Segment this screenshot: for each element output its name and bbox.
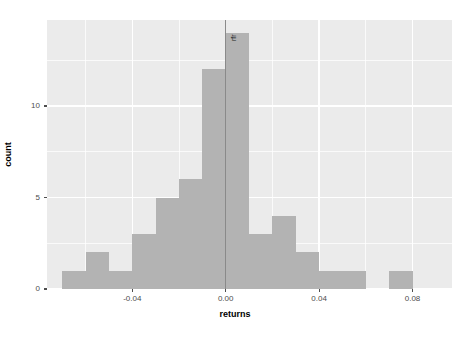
histogram-bar [86, 252, 109, 289]
histogram-bar [342, 271, 365, 289]
gridline-major-y [47, 197, 452, 198]
histogram-bar [202, 69, 225, 289]
gridline-major-x [412, 20, 413, 289]
x-tick-label: 0.00 [201, 294, 251, 303]
histogram-bar [109, 271, 132, 289]
x-tick-mark [412, 289, 413, 292]
histogram-bar [249, 234, 272, 289]
gridline-minor-y [47, 151, 452, 152]
y-tick-label: 5 [11, 193, 40, 202]
gridline-minor-x [365, 20, 366, 289]
x-axis-title: returns [0, 309, 470, 319]
gridline-minor-x [85, 20, 86, 289]
x-tick-label: 0.08 [388, 294, 438, 303]
x-tick-label: 0.04 [294, 294, 344, 303]
histogram-bar [132, 234, 155, 289]
histogram-figure: rfr 0510 -0.040.000.040.08 returns count [0, 0, 470, 337]
y-tick-mark [44, 105, 47, 106]
histogram-bar [389, 271, 412, 289]
histogram-bar [62, 271, 85, 289]
x-tick-mark [225, 289, 226, 292]
histogram-bar [226, 33, 249, 289]
y-tick-mark [44, 197, 47, 198]
plot-panel: rfr [47, 20, 452, 289]
y-tick-mark [44, 288, 47, 289]
y-tick-label: 10 [11, 101, 40, 110]
y-axis-title: count [2, 20, 14, 289]
histogram-bar [179, 179, 202, 289]
x-tick-label: -0.04 [107, 294, 157, 303]
rfr-vline [225, 20, 226, 289]
gridline-minor-y [47, 60, 452, 61]
x-tick-mark [319, 289, 320, 292]
y-tick-label: 0 [11, 284, 40, 293]
rfr-vline-label: rfr [230, 34, 237, 41]
histogram-bar [296, 252, 319, 289]
gridline-major-y [47, 105, 452, 106]
histogram-bar [156, 198, 179, 289]
histogram-bar [319, 271, 342, 289]
x-tick-mark [132, 289, 133, 292]
gridline-major-x [318, 20, 319, 289]
histogram-bar [272, 216, 295, 289]
